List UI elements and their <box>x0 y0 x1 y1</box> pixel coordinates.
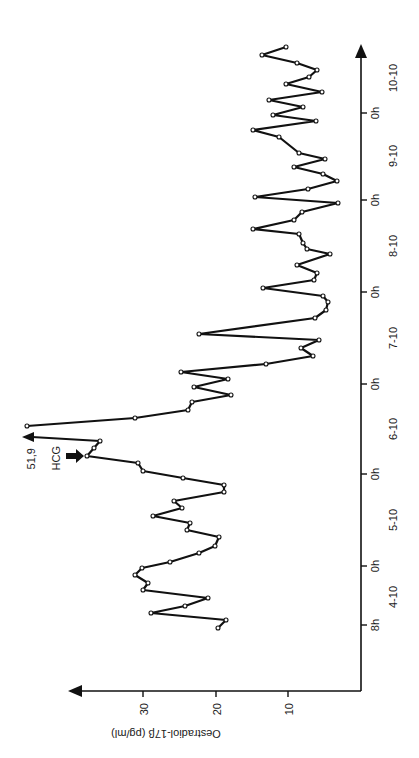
chart: 30 20 10 Oestradiol-17β (pg/ml) 8h 0h 0h… <box>0 0 419 758</box>
data-point <box>217 535 221 539</box>
data-point <box>321 172 325 176</box>
data-point <box>133 416 137 420</box>
data-point <box>292 165 296 169</box>
data-point <box>180 506 184 510</box>
data-point <box>284 82 288 86</box>
data-point <box>300 210 304 214</box>
data-point <box>85 454 89 458</box>
time-axis-arrow-icon <box>355 44 367 58</box>
data-point <box>188 521 192 525</box>
data-point <box>326 300 330 304</box>
data-point <box>216 626 220 630</box>
data-point <box>292 218 296 222</box>
data-point <box>297 232 301 236</box>
data-point <box>306 187 310 191</box>
data-point <box>267 98 271 102</box>
data-point <box>226 377 230 381</box>
y-tick-20: 20 <box>211 703 223 715</box>
data-point <box>168 560 172 564</box>
data-point <box>172 499 176 503</box>
data-point <box>264 362 268 366</box>
day-label-10-10: 10-10 <box>387 64 399 92</box>
data-point <box>260 53 264 57</box>
data-point <box>321 294 325 298</box>
off-scale-arrow-icon <box>22 432 34 442</box>
data-point <box>192 385 196 389</box>
data-point <box>261 286 265 290</box>
data-point <box>222 490 226 494</box>
data-point <box>295 263 299 267</box>
data-point <box>251 128 255 132</box>
data-point <box>133 573 137 577</box>
oestradiol-series <box>22 45 340 630</box>
data-point <box>284 45 288 49</box>
data-point <box>141 588 145 592</box>
data-point <box>315 271 319 275</box>
data-point <box>315 68 319 72</box>
x-tick-0h-3: 0h <box>369 378 381 390</box>
x-tick-0h-4: 0h <box>369 286 381 298</box>
data-point <box>197 332 201 336</box>
data-point <box>271 113 275 117</box>
data-point <box>213 544 217 548</box>
data-point <box>301 105 305 109</box>
data-point <box>301 241 305 245</box>
data-point <box>179 370 183 374</box>
x-tick-0h-2: 0h <box>369 468 381 480</box>
value-axis: 30 20 10 Oestradiol-17β (pg/ml) <box>68 685 361 740</box>
series-line-post-peak <box>27 47 338 426</box>
data-point <box>297 151 301 155</box>
y-axis-title: Oestradiol-17β (pg/ml) <box>111 728 221 740</box>
y-tick-10: 10 <box>283 703 295 715</box>
time-axis: 8h 0h 0h 0h 0h 0h 0h 4-10 5-10 6-10 7-10… <box>355 44 399 691</box>
data-points <box>25 45 340 630</box>
data-point <box>151 514 155 518</box>
data-point <box>146 581 150 585</box>
data-point <box>328 252 332 256</box>
day-label-5-10: 5-10 <box>387 509 399 531</box>
data-point <box>149 611 153 615</box>
data-point <box>141 469 145 473</box>
data-point <box>181 476 185 480</box>
x-tick-0h-6: 0h <box>369 107 381 119</box>
data-point <box>183 604 187 608</box>
data-point <box>185 528 189 532</box>
data-point <box>197 551 201 555</box>
data-point <box>253 195 257 199</box>
day-label-9-10: 9-10 <box>387 145 399 167</box>
x-tick-0h-1: 0h <box>369 560 381 572</box>
annotations: 51,9 HCG <box>25 446 84 470</box>
data-point <box>335 179 339 183</box>
data-point <box>317 338 321 342</box>
data-point <box>229 393 233 397</box>
data-point <box>98 439 102 443</box>
data-point <box>313 316 317 320</box>
data-point <box>336 201 340 205</box>
data-point <box>305 247 309 251</box>
x-tick-8h: 8h <box>369 619 381 631</box>
data-point <box>92 446 96 450</box>
data-point <box>25 424 29 428</box>
y-tick-30: 30 <box>138 703 150 715</box>
day-label-8-10: 8-10 <box>387 235 399 257</box>
off-scale-arrow-line <box>32 437 100 441</box>
hcg-arrow-icon <box>66 449 84 463</box>
day-label-7-10: 7-10 <box>387 327 399 349</box>
data-point <box>295 61 299 65</box>
hcg-label: HCG <box>50 446 62 470</box>
data-point <box>222 483 226 487</box>
data-point <box>140 566 144 570</box>
day-label-4-10: 4-10 <box>387 586 399 608</box>
data-point <box>299 346 303 350</box>
data-point <box>312 278 316 282</box>
day-label-6-10: 6-10 <box>387 418 399 440</box>
data-point <box>136 461 140 465</box>
data-point <box>314 119 318 123</box>
data-point <box>186 408 190 412</box>
data-point <box>206 596 210 600</box>
data-point <box>277 135 281 139</box>
peak-value-label: 51,9 <box>25 448 37 469</box>
data-point <box>324 308 328 312</box>
data-point <box>190 400 194 404</box>
series-line-pre-peak <box>87 441 226 628</box>
